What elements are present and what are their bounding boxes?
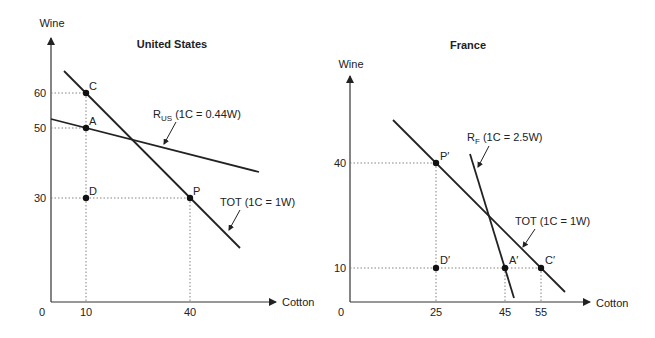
y-axis-label: Wine xyxy=(39,17,64,29)
y-tick: 40 xyxy=(334,157,346,169)
x-axis-label: Cotton xyxy=(282,296,314,308)
x-axis-label: Cotton xyxy=(596,297,628,309)
tot-line xyxy=(64,71,240,248)
chart-france: France Wine Cotton 0 25 45 55 40 10 P′ D… xyxy=(334,39,629,318)
x-tick: 40 xyxy=(184,306,196,318)
chart-title: United States xyxy=(137,38,207,50)
annotation-arrow-icon xyxy=(478,146,489,167)
y-tick: 60 xyxy=(34,87,46,99)
point-label: A xyxy=(89,115,97,127)
point-label: C xyxy=(89,80,97,92)
origin-label: 0 xyxy=(39,306,45,318)
y-tick: 10 xyxy=(334,262,346,274)
point-label: D xyxy=(89,185,97,197)
point-label: P′ xyxy=(440,150,449,162)
annotation-arrow-icon xyxy=(229,210,240,230)
trade-diagrams: United States Wine Cotton 0 10 40 60 50 … xyxy=(0,0,655,338)
r-f-annotation: RF (1C = 2.5W) xyxy=(467,131,543,146)
point-p-prime xyxy=(433,160,439,166)
y-axis-label: Wine xyxy=(338,58,363,70)
tot-annotation: TOT (1C = 1W) xyxy=(220,196,295,208)
point-a-prime xyxy=(502,265,508,271)
point-d-prime xyxy=(433,265,439,271)
tot-annotation: TOT (1C = 1W) xyxy=(515,215,590,227)
x-tick: 25 xyxy=(430,306,442,318)
origin-label: 0 xyxy=(338,306,344,318)
point-label: D′ xyxy=(440,254,450,266)
point-label: P xyxy=(193,185,200,197)
annotation-arrow-icon xyxy=(523,229,535,247)
point-label: A′ xyxy=(509,254,518,266)
y-tick: 50 xyxy=(34,122,46,134)
x-tick: 55 xyxy=(535,306,547,318)
point-label: C′ xyxy=(545,254,555,266)
r-f-line xyxy=(470,154,514,298)
point-c-prime xyxy=(538,265,544,271)
chart-title: France xyxy=(450,39,486,51)
chart-united-states: United States Wine Cotton 0 10 40 60 50 … xyxy=(34,17,315,318)
y-tick: 30 xyxy=(34,192,46,204)
x-tick: 45 xyxy=(499,306,511,318)
r-us-annotation: RUS (1C = 0.44W) xyxy=(153,108,241,123)
x-tick: 10 xyxy=(80,306,92,318)
r-us-line xyxy=(51,119,259,172)
annotation-arrow-icon xyxy=(164,122,176,144)
